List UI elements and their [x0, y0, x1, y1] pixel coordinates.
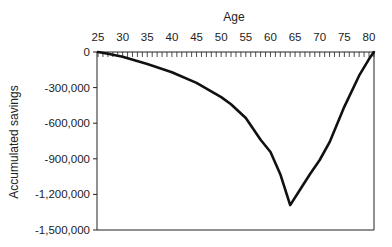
- y-tick-label: -1,500,000: [35, 224, 90, 236]
- x-tick-label: 75: [338, 31, 351, 43]
- y-axis-ticks: 0-300,000-600,000-900,000-1,200,000-1,50…: [35, 46, 97, 236]
- x-tick-label: 45: [190, 31, 203, 43]
- x-tick-label: 70: [313, 31, 326, 43]
- y-tick-label: -1,200,000: [35, 188, 90, 200]
- x-tick-label: 30: [116, 31, 129, 43]
- line-chart: Age 253035404550556065707580 0-300,000-6…: [0, 0, 392, 247]
- x-tick-label: 40: [166, 31, 179, 43]
- y-tick-label: 0: [84, 46, 90, 58]
- y-tick-label: -600,000: [45, 117, 90, 129]
- x-tick-label: 55: [239, 31, 252, 43]
- x-axis-title: Age: [223, 10, 245, 24]
- x-tick-label: 65: [289, 31, 302, 43]
- y-tick-label: -300,000: [45, 82, 90, 94]
- x-tick-label: 80: [363, 31, 376, 43]
- x-tick-label: 50: [215, 31, 228, 43]
- x-minor-ticks: [98, 52, 374, 57]
- y-axis-title: Accumulated savings: [7, 85, 21, 198]
- y-tick-label: -900,000: [45, 153, 90, 165]
- x-axis-ticks: 253035404550556065707580: [92, 31, 376, 43]
- x-tick-label: 60: [264, 31, 277, 43]
- x-tick-label: 25: [92, 31, 105, 43]
- data-line: [98, 52, 374, 205]
- x-tick-label: 35: [141, 31, 154, 43]
